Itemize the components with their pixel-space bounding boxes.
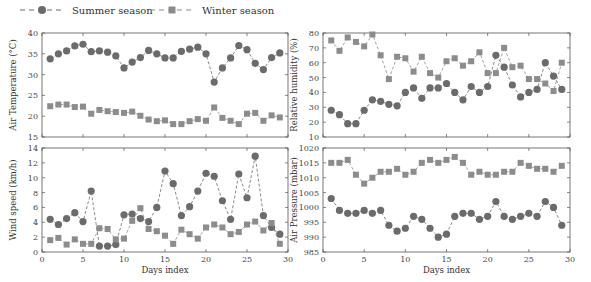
- data-point: [501, 169, 507, 175]
- data-point: [146, 226, 152, 232]
- data-point: [468, 58, 474, 64]
- summer-series: [328, 195, 566, 241]
- data-point: [476, 89, 483, 96]
- data-point: [484, 213, 491, 220]
- data-point: [243, 46, 250, 53]
- y-tick-label: 10: [28, 174, 38, 183]
- data-point: [559, 163, 565, 169]
- y-tick-label: 2: [33, 233, 38, 242]
- chart-canvas: 152025303540Air Temperature (°C)10203040…: [0, 0, 591, 282]
- data-point: [145, 47, 152, 54]
- data-point: [345, 34, 351, 40]
- data-point: [402, 172, 408, 178]
- data-point: [154, 118, 160, 124]
- data-point: [418, 216, 425, 223]
- data-point: [484, 83, 491, 90]
- data-point: [328, 37, 334, 43]
- y-tick-label: 1005: [299, 189, 319, 198]
- data-point: [402, 89, 409, 96]
- data-point: [459, 210, 466, 217]
- data-point: [559, 60, 565, 66]
- data-point: [353, 172, 359, 178]
- data-point: [369, 96, 376, 103]
- data-point: [88, 241, 94, 247]
- data-point: [252, 153, 259, 160]
- data-point: [485, 70, 491, 76]
- data-point: [451, 213, 458, 220]
- data-point: [244, 222, 250, 228]
- data-point: [402, 55, 408, 61]
- y-tick-label: 990: [304, 233, 319, 242]
- data-point: [411, 169, 417, 175]
- data-point: [328, 107, 335, 114]
- y-tick-label: 995: [304, 218, 319, 227]
- y-tick-label: 8: [33, 189, 38, 198]
- data-point: [47, 237, 53, 243]
- data-point: [71, 42, 78, 49]
- data-point: [228, 118, 234, 124]
- x-tick-label: 0: [320, 255, 325, 264]
- y-tick-label: 10: [309, 133, 319, 142]
- data-point: [104, 242, 111, 249]
- data-point: [435, 234, 442, 241]
- data-point: [419, 160, 425, 166]
- data-point: [493, 70, 499, 76]
- data-point: [79, 218, 86, 225]
- data-point: [227, 54, 234, 61]
- data-point: [187, 231, 193, 237]
- data-point: [162, 233, 168, 239]
- y-tick-label: 40: [309, 88, 319, 97]
- data-point: [369, 31, 375, 37]
- data-point: [252, 60, 259, 67]
- data-point: [260, 118, 266, 124]
- data-point: [493, 172, 499, 178]
- data-point: [72, 236, 78, 242]
- data-point: [509, 169, 515, 175]
- data-point: [410, 213, 417, 220]
- data-point: [443, 231, 450, 238]
- data-point: [419, 54, 425, 60]
- data-point: [137, 54, 144, 61]
- data-point: [452, 154, 458, 160]
- data-point: [88, 111, 94, 117]
- data-point: [369, 210, 376, 217]
- data-point: [352, 210, 359, 217]
- data-point: [104, 49, 111, 56]
- data-point: [194, 44, 201, 51]
- data-point: [211, 104, 217, 110]
- data-point: [71, 209, 78, 216]
- x-tick-label: 20: [201, 255, 211, 264]
- y-tick-label: 20: [28, 112, 38, 121]
- data-point: [443, 80, 450, 87]
- data-point: [476, 169, 482, 175]
- data-point: [344, 210, 351, 217]
- data-point: [517, 93, 524, 100]
- winter-series: [47, 102, 283, 128]
- y-tick-label: 1000: [299, 203, 319, 212]
- data-point: [336, 160, 342, 166]
- y-axis-label: Air Temperature (°C): [8, 39, 18, 131]
- data-point: [427, 157, 433, 163]
- data-point: [47, 55, 54, 62]
- data-point: [105, 108, 111, 114]
- y-tick-label: 80: [309, 29, 319, 38]
- data-point: [344, 120, 351, 127]
- air-temperature-plot: 152025303540Air Temperature (°C): [8, 29, 288, 142]
- data-point: [336, 48, 342, 54]
- data-point: [219, 64, 226, 71]
- data-point: [525, 210, 532, 217]
- data-point: [162, 117, 168, 123]
- data-point: [534, 166, 540, 172]
- data-point: [252, 219, 258, 225]
- data-point: [146, 117, 152, 123]
- x-tick-label: 5: [80, 255, 85, 264]
- x-tick-label: 0: [39, 255, 44, 264]
- data-point: [526, 163, 532, 169]
- x-tick-label: 5: [362, 255, 367, 264]
- y-axis-label: Relative humidity (%): [289, 38, 299, 131]
- data-point: [353, 39, 359, 45]
- data-point: [186, 203, 193, 210]
- data-point: [72, 104, 78, 110]
- data-point: [509, 81, 516, 88]
- data-point: [170, 241, 176, 247]
